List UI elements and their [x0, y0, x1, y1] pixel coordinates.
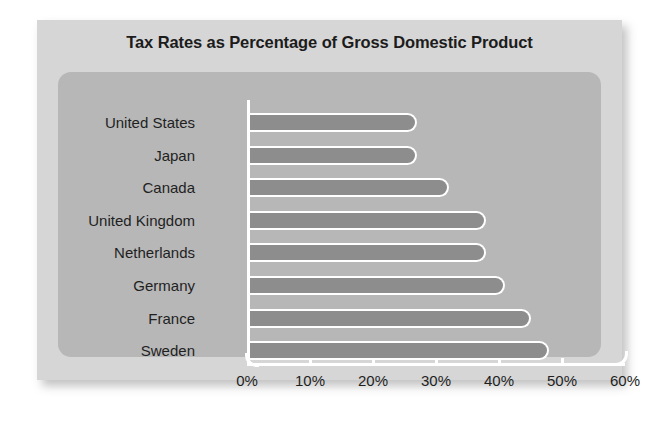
chart-figure: Tax Rates as Percentage of Gross Domesti…: [0, 0, 658, 433]
category-label: United Kingdom: [88, 212, 195, 230]
tick-mark: [309, 358, 312, 366]
bar: [247, 113, 417, 132]
tick-mark: [498, 358, 501, 366]
chart-card: Tax Rates as Percentage of Gross Domesti…: [37, 20, 622, 380]
tick-mark: [435, 358, 438, 366]
bar: [247, 341, 549, 360]
tick-mark: [372, 358, 375, 366]
tick-label: 0%: [217, 372, 277, 389]
tick-label: 20%: [343, 372, 403, 389]
tick-label: 10%: [280, 372, 340, 389]
bar: [247, 178, 449, 197]
category-label: France: [148, 310, 195, 328]
category-label: Japan: [154, 147, 195, 165]
bar: [247, 211, 486, 230]
axis-corner-right: [614, 351, 628, 366]
category-label: Netherlands: [114, 244, 195, 262]
value-axis-spine: [247, 100, 250, 365]
bar: [247, 243, 486, 262]
bar: [247, 146, 417, 165]
bars-area: [211, 75, 631, 345]
category-label: Germany: [133, 277, 195, 295]
category-label: Sweden: [141, 342, 195, 360]
category-axis-labels: United StatesJapanCanadaUnited KingdomNe…: [37, 75, 203, 345]
tick-mark: [561, 358, 564, 366]
tick-label: 60%: [595, 372, 655, 389]
bar: [247, 309, 531, 328]
category-label: United States: [105, 114, 195, 132]
category-label: Canada: [142, 179, 195, 197]
tick-label: 30%: [406, 372, 466, 389]
tick-label: 50%: [532, 372, 592, 389]
bar: [247, 276, 505, 295]
chart-title: Tax Rates as Percentage of Gross Domesti…: [37, 33, 622, 52]
tick-label: 40%: [469, 372, 529, 389]
